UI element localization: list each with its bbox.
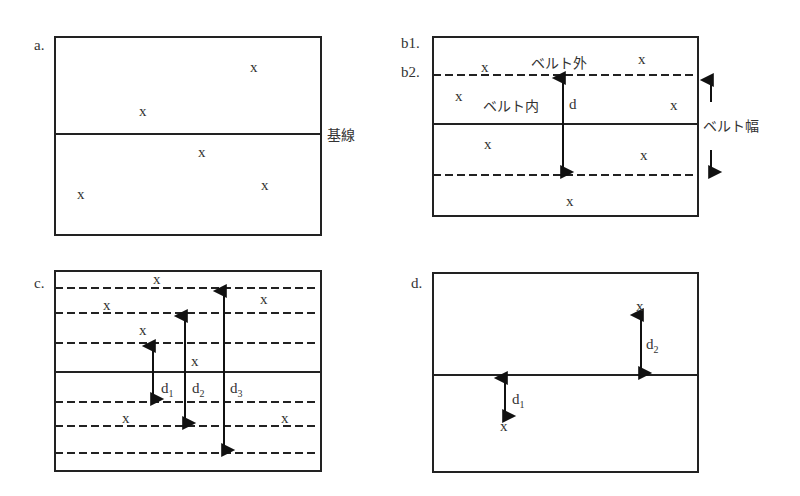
point-marker: x [122, 410, 130, 426]
point-marker: x [191, 353, 199, 369]
panel-a-frame [55, 37, 321, 235]
point-marker: x [638, 51, 646, 67]
panel-d: d. d2 d1 x x [411, 273, 698, 472]
point-marker: x [670, 97, 678, 113]
point-marker: x [139, 103, 147, 119]
point-marker: x [103, 297, 111, 313]
panel-b2-label: b2. [401, 64, 420, 80]
baseline-label: 基線 [327, 127, 355, 143]
panel-a-points: x x x x x [77, 59, 269, 202]
point-marker: x [636, 298, 644, 314]
point-marker: x [281, 410, 289, 426]
panel-b: b1. b2. ベルト外 ベルト内 d ベルト幅 x x x x x x x [401, 35, 759, 216]
belt-width-label: ベルト幅 [703, 118, 759, 134]
panel-d-label: d. [411, 275, 422, 291]
d2-label: d2 [192, 380, 205, 399]
inside-belt-label: ベルト内 [483, 98, 539, 114]
d2-label: d2 [646, 336, 659, 355]
point-marker: x [261, 177, 269, 193]
point-marker: x [484, 136, 492, 152]
panel-d-frame [433, 273, 698, 472]
d3-label: d3 [230, 380, 243, 399]
point-marker: x [455, 88, 463, 104]
outside-belt-label: ベルト外 [531, 55, 587, 71]
distance-label: d [569, 96, 577, 112]
belt-transect-diagram: a. 基線 x x x x x b1. b2. ベルト外 ベルト内 d ベルト幅… [0, 0, 800, 496]
point-marker: x [250, 59, 258, 75]
point-marker: x [640, 147, 648, 163]
point-marker: x [500, 418, 508, 434]
point-marker: x [139, 322, 147, 338]
panel-a: a. 基線 x x x x x [34, 37, 355, 235]
point-marker: x [198, 144, 206, 160]
d1-label: d1 [512, 391, 525, 410]
point-marker: x [481, 59, 489, 75]
panel-c: c. d1 d2 d3 x x x x x x x [34, 271, 321, 471]
point-marker: x [153, 271, 161, 287]
d1-label: d1 [161, 380, 174, 399]
panel-a-label: a. [34, 37, 44, 53]
panel-b1-label: b1. [401, 35, 420, 51]
point-marker: x [566, 193, 574, 209]
point-marker: x [77, 186, 85, 202]
panel-d-points: x x [500, 298, 644, 434]
panel-c-label: c. [34, 275, 44, 291]
point-marker: x [260, 291, 268, 307]
